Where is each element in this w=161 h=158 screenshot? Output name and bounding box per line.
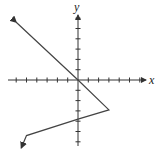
y-axis-label: y	[73, 0, 80, 14]
graph-line	[16, 22, 109, 148]
graph-canvas: x y	[0, 0, 161, 158]
x-axis-label: x	[148, 73, 155, 87]
